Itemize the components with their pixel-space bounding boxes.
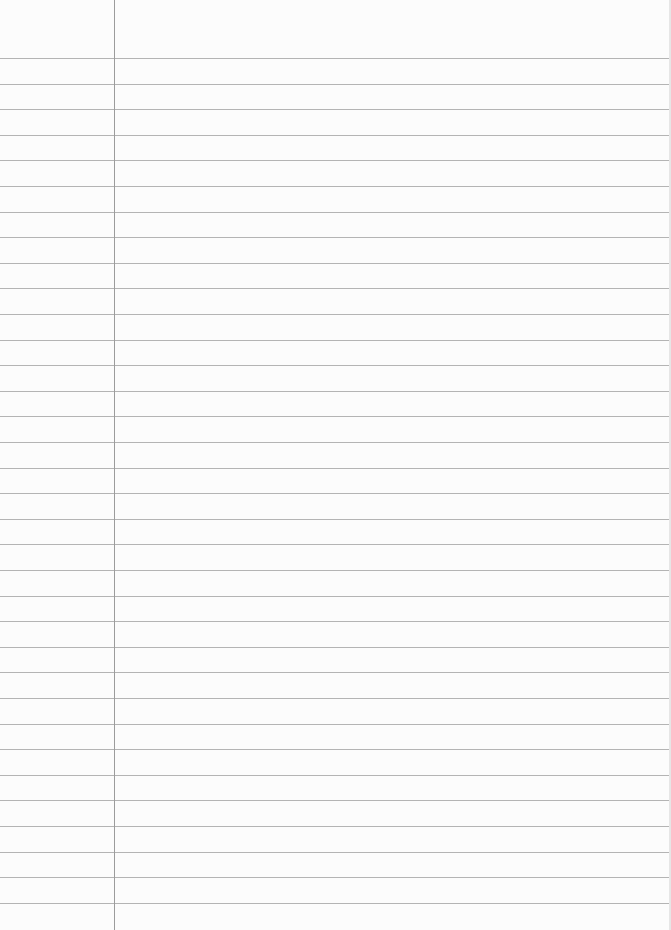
ruled-line xyxy=(0,468,669,469)
ruled-line xyxy=(0,212,669,213)
ruled-line xyxy=(0,596,669,597)
ruled-line xyxy=(0,698,669,699)
ruled-line xyxy=(0,263,669,264)
ruled-line xyxy=(0,160,669,161)
ruled-line xyxy=(0,749,669,750)
ruled-line xyxy=(0,672,669,673)
ruled-line xyxy=(0,775,669,776)
ruled-line xyxy=(0,186,669,187)
ruled-line xyxy=(0,724,669,725)
ruled-line xyxy=(0,826,669,827)
ruled-line xyxy=(0,314,669,315)
ruled-line xyxy=(0,58,669,59)
ruled-line xyxy=(0,647,669,648)
ruled-line xyxy=(0,84,669,85)
ruled-line xyxy=(0,800,669,801)
ruled-line xyxy=(0,340,669,341)
ruled-line xyxy=(0,544,669,545)
ruled-line xyxy=(0,109,669,110)
ruled-line xyxy=(0,493,669,494)
ruled-line xyxy=(0,416,669,417)
ruled-line xyxy=(0,135,669,136)
ruled-line xyxy=(0,570,669,571)
ruled-line xyxy=(0,442,669,443)
ruled-line xyxy=(0,903,669,904)
ruled-line xyxy=(0,877,669,878)
ruled-line xyxy=(0,852,669,853)
ruled-line xyxy=(0,391,669,392)
ruled-line xyxy=(0,288,669,289)
ruled-line xyxy=(0,519,669,520)
margin-line xyxy=(114,0,115,930)
ruled-line xyxy=(0,365,669,366)
ruled-paper-sheet xyxy=(0,0,671,930)
ruled-line xyxy=(0,237,669,238)
ruled-line xyxy=(0,621,669,622)
